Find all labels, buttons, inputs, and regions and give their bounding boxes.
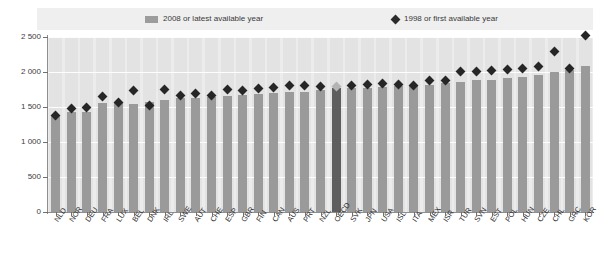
y-axis-tick: [43, 37, 48, 38]
gridline: [48, 37, 593, 38]
x-axis-tick: [274, 212, 275, 216]
bar-aus[interactable]: [285, 92, 294, 212]
bar-nor[interactable]: [67, 112, 76, 212]
bar-chl[interactable]: [550, 72, 559, 212]
x-axis-tick: [445, 212, 446, 216]
bar-isr[interactable]: [441, 83, 450, 212]
x-axis-tick: [227, 212, 228, 216]
legend-item-bar-series: 2008 or latest available year: [145, 8, 263, 30]
x-axis-tick: [289, 212, 290, 216]
chart-legend: 2008 or latest available year 1998 or fi…: [37, 8, 593, 30]
bar-pol[interactable]: [503, 78, 512, 212]
y-axis-tick: [43, 72, 48, 73]
x-axis-tick: [585, 212, 586, 216]
x-axis-tick: [414, 212, 415, 216]
x-axis-tick: [352, 212, 353, 216]
bar-kor[interactable]: [581, 66, 590, 212]
x-axis-tick: [476, 212, 477, 216]
legend-bar-label: 2008 or latest available year: [163, 15, 263, 23]
y-axis-tick: [43, 177, 48, 178]
y-axis-labels: 05001 0001 5002 0002 500: [0, 0, 41, 259]
y-axis-line: [47, 35, 48, 214]
x-axis-tick: [243, 212, 244, 216]
bar-esp[interactable]: [223, 96, 232, 212]
y-axis-tick-label: 2 000: [1, 68, 41, 76]
x-axis-tick: [212, 212, 213, 216]
bar-tur[interactable]: [456, 82, 465, 212]
y-axis-tick-label: 1 500: [1, 103, 41, 111]
diamond-marker-icon: [391, 14, 401, 24]
x-axis-tick: [258, 212, 259, 216]
bar-hun[interactable]: [518, 77, 527, 212]
x-axis-tick: [321, 212, 322, 216]
x-axis-tick: [367, 212, 368, 216]
x-axis-tick: [461, 212, 462, 216]
x-axis-tick: [149, 212, 150, 216]
bar-aut[interactable]: [191, 98, 200, 212]
bar-svk[interactable]: [347, 88, 356, 212]
x-axis-tick: [398, 212, 399, 216]
y-axis-tick-label: 1 000: [1, 138, 41, 146]
x-axis-tick: [71, 212, 72, 216]
bar-isl[interactable]: [394, 86, 403, 212]
bar-swatch-icon: [145, 16, 158, 23]
x-axis-tick: [383, 212, 384, 216]
bar-nzl[interactable]: [316, 90, 325, 213]
bar-deu[interactable]: [82, 112, 91, 212]
bar-jpn[interactable]: [363, 88, 372, 212]
bar-bel[interactable]: [129, 104, 138, 212]
legend-diamond-label: 1998 or first available year: [404, 15, 498, 23]
x-axis-tick: [570, 212, 571, 216]
x-axis-tick: [507, 212, 508, 216]
y-axis-tick: [43, 107, 48, 108]
bar-svn[interactable]: [472, 80, 481, 212]
chart-container: 2008 or latest available year 1998 or fi…: [0, 0, 603, 259]
x-axis-tick: [134, 212, 135, 216]
x-axis-tick: [165, 212, 166, 216]
bar-can[interactable]: [269, 93, 278, 212]
x-axis-tick: [103, 212, 104, 216]
bar-gbr[interactable]: [238, 95, 247, 212]
plot-area: [48, 37, 593, 212]
x-axis-tick: [336, 212, 337, 216]
bar-fra[interactable]: [98, 103, 107, 212]
x-axis-tick: [305, 212, 306, 216]
bar-swe[interactable]: [176, 98, 185, 212]
x-axis-tick: [430, 212, 431, 216]
bar-prt[interactable]: [300, 92, 309, 212]
x-axis-tick: [523, 212, 524, 216]
y-axis-tick-label: 0: [1, 208, 41, 216]
y-axis-tick-label: 2 500: [1, 33, 41, 41]
x-axis-tick: [196, 212, 197, 216]
gridline: [48, 72, 593, 73]
bar-oecd[interactable]: [332, 88, 341, 212]
bar-dnk[interactable]: [145, 102, 154, 212]
x-axis-tick: [554, 212, 555, 216]
x-axis-tick: [118, 212, 119, 216]
bar-ita[interactable]: [409, 86, 418, 212]
legend-item-diamond-series: 1998 or first available year: [392, 8, 498, 30]
bar-lux[interactable]: [114, 103, 123, 212]
bar-irl[interactable]: [160, 100, 169, 212]
y-axis-tick: [43, 212, 48, 213]
bar-grc[interactable]: [565, 70, 574, 212]
x-axis-tick: [492, 212, 493, 216]
bar-fin[interactable]: [254, 94, 263, 212]
x-axis-tick: [87, 212, 88, 216]
bar-cze[interactable]: [534, 75, 543, 212]
x-axis-tick: [180, 212, 181, 216]
y-axis-tick-label: 500: [1, 173, 41, 181]
x-axis-tick: [56, 212, 57, 216]
bar-mex[interactable]: [425, 85, 434, 212]
y-axis-tick: [43, 142, 48, 143]
bar-est[interactable]: [487, 80, 496, 212]
bar-nld[interactable]: [51, 115, 60, 212]
x-axis-tick: [539, 212, 540, 216]
bar-usa[interactable]: [378, 87, 387, 212]
bar-che[interactable]: [207, 97, 216, 212]
